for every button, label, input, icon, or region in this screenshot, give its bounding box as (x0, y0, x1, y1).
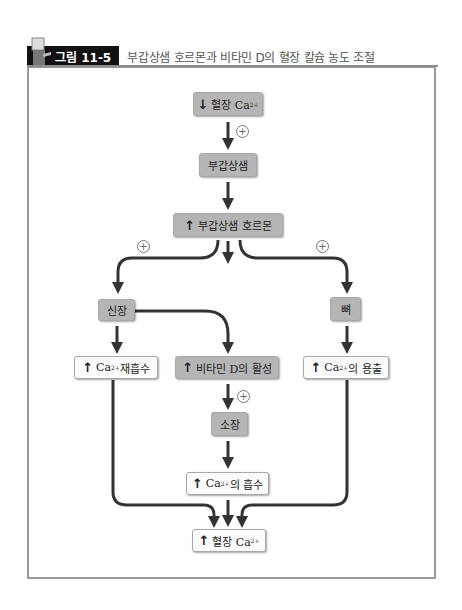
down-arrow-icon: ↓ (197, 97, 208, 112)
node-bone: 뼈 (330, 297, 361, 321)
plus-stimulus-icon: + (237, 390, 250, 403)
node-high-plasma-calcium: ↑ 혈장 Ca2+ (192, 529, 266, 552)
node-parathyroid: 부갑상샘 (199, 153, 257, 177)
node-calcium-absorption: ↑ Ca2+의 흡수 (186, 472, 269, 495)
up-arrow-icon: ↑ (310, 360, 321, 375)
node-calcium-release: ↑ Ca2+의 용출 (303, 356, 389, 379)
up-arrow-icon: ↑ (184, 218, 195, 233)
node-vitamin-d-activation: ↑ 비타민 D의 활성 (175, 356, 279, 379)
up-arrow-icon: ↑ (192, 476, 203, 491)
node-pth-increase: ↑ 부갑상샘 호르몬 (173, 213, 283, 237)
plus-stimulus-icon: + (316, 240, 329, 253)
up-arrow-icon: ↑ (198, 533, 209, 548)
node-low-plasma-calcium: ↓ 혈장 Ca2+ (193, 92, 263, 116)
plus-stimulus-icon: + (236, 125, 249, 138)
plus-stimulus-icon: + (137, 240, 150, 253)
up-arrow-icon: ↑ (82, 360, 93, 375)
node-kidney: 신장 (98, 299, 135, 321)
node-small-intestine: 소장 (211, 412, 248, 436)
up-arrow-icon: ↑ (182, 360, 193, 375)
node-calcium-reabsorption: ↑ Ca2+ 재흡수 (74, 356, 158, 379)
